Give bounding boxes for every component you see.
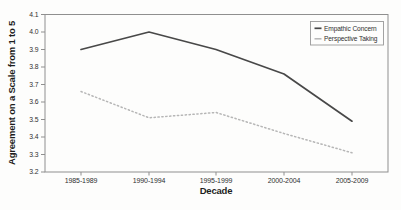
y-tick-label: 3.6 bbox=[29, 98, 38, 105]
chart-canvas: 4.14.03.93.83.73.63.53.43.33.21985-19891… bbox=[0, 0, 401, 210]
x-tick-label: 2000-2004 bbox=[268, 177, 301, 184]
x-tick-label: 1985-1989 bbox=[65, 177, 98, 184]
y-tick-label: 3.3 bbox=[29, 151, 38, 158]
legend-label-perspective-taking: Perspective Taking bbox=[324, 35, 378, 43]
x-axis-title: Decade bbox=[200, 185, 233, 196]
x-tick-label: 1995-1999 bbox=[200, 177, 233, 184]
legend-label-empathic-concern: Empathic Concern bbox=[324, 25, 377, 33]
y-tick-label: 4.1 bbox=[29, 11, 38, 18]
y-tick-label: 3.4 bbox=[29, 133, 38, 140]
y-axis-title: Agreement on a Scale from 1 to 5 bbox=[6, 21, 17, 165]
empathy-decline-figure: 4.14.03.93.83.73.63.53.43.33.21985-19891… bbox=[0, 0, 401, 210]
y-tick-label: 3.2 bbox=[29, 168, 38, 175]
y-tick-label: 3.8 bbox=[29, 63, 38, 70]
x-tick-label: 1990-1994 bbox=[133, 177, 166, 184]
y-tick-label: 3.9 bbox=[29, 46, 38, 53]
y-tick-label: 4.0 bbox=[29, 28, 38, 35]
x-tick-label: 2005-2009 bbox=[336, 177, 369, 184]
y-tick-label: 3.5 bbox=[29, 116, 38, 123]
series-line-perspective-taking bbox=[81, 92, 352, 153]
y-tick-label: 3.7 bbox=[29, 81, 38, 88]
